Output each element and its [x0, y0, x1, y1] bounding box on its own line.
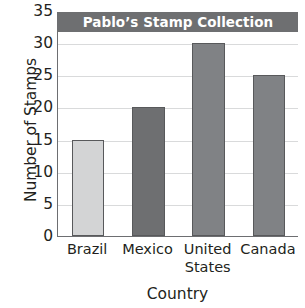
bar [72, 140, 105, 236]
bars-layer [58, 12, 298, 236]
y-axis-tick-label: 20 [20, 101, 53, 117]
x-axis-tick-label: Canada [238, 240, 298, 258]
y-axis-tick-label: 35 [20, 4, 53, 20]
y-axis-tick-labels: 05101520253035 [20, 12, 53, 238]
y-axis-tick-label: 10 [20, 165, 53, 181]
y-axis-tick-label: 0 [20, 229, 53, 245]
plot-area: Pablo’s Stamp Collection [57, 12, 298, 237]
x-axis-tick-label: United States [178, 240, 238, 276]
x-axis-title: Country [57, 284, 298, 304]
bar [132, 107, 165, 236]
x-axis-tick-label: Brazil [57, 240, 117, 258]
y-axis-tick-label: 25 [20, 69, 53, 85]
y-axis-tick-label: 30 [20, 36, 53, 52]
bar [253, 75, 286, 236]
x-axis-tick-label: Mexico [117, 240, 177, 258]
x-axis-tick-labels: BrazilMexicoUnited StatesCanada [57, 240, 298, 278]
bar-chart-figure: Number of Stamps 05101520253035 Pablo’s … [0, 0, 305, 308]
y-axis-tick-label: 5 [20, 197, 53, 213]
y-axis-tick-label: 15 [20, 133, 53, 149]
bar [192, 43, 225, 236]
